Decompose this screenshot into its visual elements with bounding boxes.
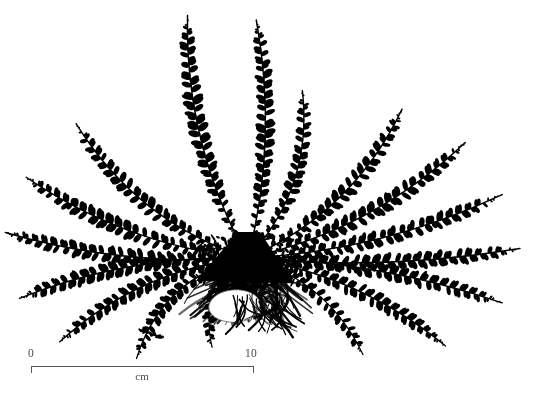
fern-specimen-illustration (0, 0, 535, 400)
figure-root: 0 10 cm (0, 0, 535, 400)
